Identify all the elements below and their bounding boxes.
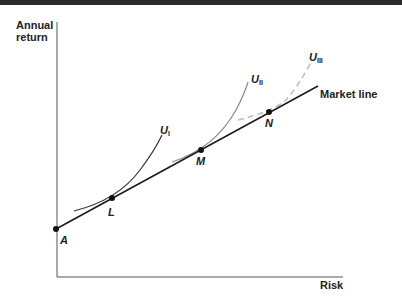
curve-u-ii <box>172 82 248 162</box>
label-u-ii: UII <box>251 73 263 86</box>
point-n <box>266 109 272 115</box>
market-line-label: Market line <box>320 88 377 100</box>
label-a: A <box>60 234 68 246</box>
label-n: N <box>265 117 273 129</box>
u-i-sub: I <box>168 130 170 137</box>
x-axis-label: Risk <box>320 279 343 291</box>
u-iii-base: U <box>309 51 317 63</box>
point-m <box>198 147 204 153</box>
label-m: M <box>196 155 205 167</box>
y-label-line1: Annual <box>16 19 53 31</box>
y-label-line2: return <box>16 31 53 43</box>
u-ii-base: U <box>251 73 259 85</box>
curve-u-i <box>74 135 162 211</box>
point-a <box>53 226 59 232</box>
diagram-canvas <box>0 0 402 300</box>
curve-u-iii <box>238 60 312 120</box>
label-u-iii: UIII <box>309 51 323 64</box>
point-l <box>109 195 115 201</box>
market-line <box>56 86 318 229</box>
u-i-base: U <box>160 124 168 136</box>
label-l: L <box>108 206 115 218</box>
label-u-i: UI <box>160 124 170 137</box>
u-iii-sub: III <box>317 57 323 64</box>
y-axis-label: Annual return <box>16 19 53 43</box>
u-ii-sub: II <box>259 79 263 86</box>
